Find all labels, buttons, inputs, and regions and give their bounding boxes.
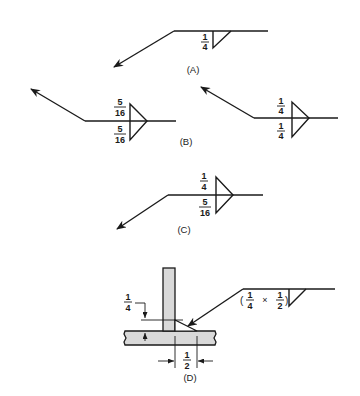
svg-text:2: 2: [277, 301, 282, 311]
svg-text:5: 5: [117, 97, 122, 107]
welding-symbols-diagram: 1 4 (A) 5 16 5 16 (B) 1 4 1: [0, 0, 360, 396]
svg-text:(: (: [240, 295, 244, 306]
svg-text:4: 4: [278, 106, 283, 116]
arrow-leader: [117, 195, 168, 229]
svg-text:2: 2: [184, 361, 189, 371]
unequal-leg-size-text: ( 1 4 × 1 2 ): [240, 290, 288, 311]
svg-text:4: 4: [201, 182, 206, 192]
bottom-fraction: 5 16: [199, 197, 211, 218]
svg-text:1: 1: [201, 171, 206, 181]
arrow-side-fraction: 1 4: [277, 96, 285, 116]
panel-label: (D): [183, 372, 196, 383]
panel-b-left: 5 16 5 16: [31, 89, 176, 145]
arrow-leader: [114, 31, 174, 67]
svg-text:1: 1: [125, 292, 130, 302]
fillet-weld-symbol-icon: [213, 31, 231, 48]
panel-d: ( 1 4 × 1 2 ) 1 4 1 2: [124, 268, 335, 383]
arrow-leader: [31, 89, 85, 121]
panel-label-b: (B): [180, 136, 193, 147]
size-fraction: 1 4: [201, 32, 209, 52]
svg-text:5: 5: [202, 197, 207, 207]
svg-text:16: 16: [200, 208, 210, 218]
other-side-fraction: 1 4: [277, 121, 285, 141]
svg-text:4: 4: [247, 301, 252, 311]
svg-text:16: 16: [115, 135, 125, 145]
svg-text:): ): [285, 295, 288, 306]
svg-text:1: 1: [202, 32, 207, 42]
svg-text:1: 1: [184, 350, 189, 360]
svg-text:1: 1: [278, 121, 283, 131]
panel-label: (C): [177, 224, 190, 235]
top-fraction: 1 4: [200, 171, 208, 192]
panel-b-right: 1 4 1 4: [201, 87, 338, 141]
panel-c: 1 4 5 16 (C): [117, 171, 263, 235]
panel-a: 1 4 (A): [114, 31, 268, 75]
base-plate: [124, 331, 216, 345]
svg-text:1: 1: [278, 96, 283, 106]
arrow-side-fraction: 5 16: [114, 97, 126, 118]
svg-text:1: 1: [247, 290, 252, 300]
panel-label: (A): [187, 64, 200, 75]
svg-text:4: 4: [202, 42, 207, 52]
svg-text:5: 5: [117, 124, 122, 134]
other-side-fraction: 5 16: [114, 124, 126, 145]
svg-text:4: 4: [125, 303, 130, 313]
svg-text:1: 1: [277, 290, 282, 300]
arrow-leader: [188, 289, 243, 326]
vertical-plate: [163, 268, 175, 331]
svg-text:16: 16: [115, 108, 125, 118]
fillet-weld-both-sides-icon: [292, 102, 309, 137]
svg-text:4: 4: [278, 131, 283, 141]
arrow-leader: [201, 87, 254, 118]
fillet-weld-both-sides-icon: [130, 104, 147, 140]
svg-text:×: ×: [262, 295, 267, 305]
fillet-weld-symbol-icon: [289, 289, 306, 306]
